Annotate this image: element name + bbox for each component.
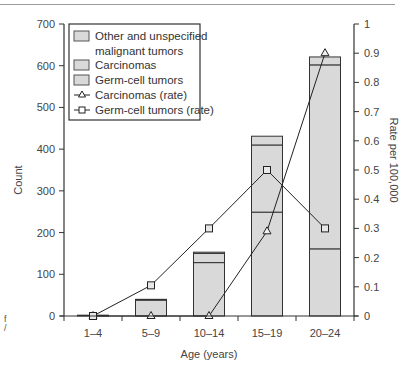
square-icon — [79, 107, 85, 113]
right-tick-label: 0.3 — [364, 222, 379, 234]
x-tick-label: 10–14 — [194, 327, 225, 339]
legend-swatch-other — [74, 31, 89, 41]
right-tick-label: 0.6 — [364, 135, 379, 147]
bar-segment-other-and-unspecified-malignant-tumors — [252, 136, 283, 145]
y2-axis-title: Rate per 100,000 — [388, 117, 400, 202]
legend-label-germ-cell-rate: Germ-cell tumors (rate) — [95, 104, 214, 116]
x-tick-label: 5–9 — [142, 327, 160, 339]
right-tick-label: 0.4 — [364, 193, 379, 205]
triangle-marker — [321, 49, 329, 56]
bar-segment-carcinomas — [310, 65, 341, 249]
left-tick-label: 200 — [37, 227, 55, 239]
bar-segment-other-and-unspecified-malignant-tumors — [136, 299, 167, 300]
left-tick-label: 400 — [37, 143, 55, 155]
left-tick-label: 700 — [37, 18, 55, 30]
right-tick-label: 0.2 — [364, 252, 379, 264]
left-tick-label: 100 — [37, 268, 55, 280]
bar-segment-carcinomas — [252, 145, 283, 212]
legend-swatch-germ-cell — [74, 75, 89, 85]
square-marker — [322, 225, 329, 232]
legend-label-carcinomas-rate: Carcinomas (rate) — [95, 89, 187, 101]
square-marker — [206, 225, 213, 232]
y-axis-title: Count — [12, 165, 24, 194]
left-tick-label: 0 — [49, 310, 55, 322]
margin-fragment: f / — [4, 315, 7, 333]
right-tick-label: 0.5 — [364, 164, 379, 176]
right-tick-label: 0 — [364, 310, 370, 322]
legend-label-germ-cell: Germ-cell tumors — [95, 74, 183, 86]
left-tick-label: 300 — [37, 185, 55, 197]
right-tick-label: 0.9 — [364, 47, 379, 59]
legend-label-carcinomas: Carcinomas — [95, 59, 157, 71]
square-marker — [264, 167, 271, 174]
right-tick-label: 0.8 — [364, 76, 379, 88]
x-tick-label: 1–4 — [84, 327, 102, 339]
bar-segment-other-and-unspecified-malignant-tumors — [310, 57, 341, 65]
bar-segment-other-and-unspecified-malignant-tumors — [194, 252, 225, 253]
legend-label-other: Other and unspecified — [95, 30, 208, 42]
right-tick-label: 1 — [364, 18, 370, 30]
square-marker — [148, 282, 155, 289]
legend-swatch-carcinomas — [74, 60, 89, 70]
x-axis-title: Age (years) — [181, 348, 238, 360]
chart: 010020030040050060070000.10.20.30.40.50.… — [0, 0, 407, 369]
bar-segment-germ-cell-tumors — [194, 263, 225, 316]
bar-segment-carcinomas — [194, 253, 225, 262]
bar-segment-germ-cell-tumors — [310, 249, 341, 316]
legend-label-other-2: malignant tumors — [95, 45, 183, 57]
left-tick-label: 500 — [37, 101, 55, 113]
x-tick-label: 15–19 — [252, 327, 283, 339]
left-tick-label: 600 — [37, 60, 55, 72]
right-tick-label: 0.1 — [364, 281, 379, 293]
right-tick-label: 0.7 — [364, 106, 379, 118]
margin-fragment-line2: / — [4, 324, 7, 333]
x-tick-label: 20–24 — [310, 327, 341, 339]
legend: Other and unspecifiedmalignant tumorsCar… — [69, 24, 214, 120]
